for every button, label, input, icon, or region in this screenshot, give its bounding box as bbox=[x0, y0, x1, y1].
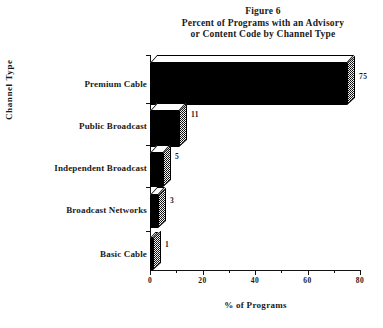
y-axis-tick bbox=[146, 103, 150, 104]
y-axis-tick bbox=[146, 145, 150, 146]
bar-value-broadcast-networks: 3 bbox=[170, 196, 174, 205]
bar-side-public-broadcast bbox=[179, 104, 187, 147]
x-axis-tick-minor bbox=[229, 270, 230, 273]
x-axis-label-60: 60 bbox=[303, 276, 311, 285]
bar-value-independent-broadcast: 5 bbox=[175, 152, 179, 161]
y-axis-tick bbox=[146, 231, 150, 232]
bar-side-independent-broadcast bbox=[163, 146, 171, 187]
x-axis-label-80: 80 bbox=[356, 276, 364, 285]
bar-front-public-broadcast bbox=[150, 111, 179, 147]
bar-value-public-broadcast: 11 bbox=[191, 110, 199, 119]
category-label-premium-cable: Premium Cable bbox=[84, 79, 147, 89]
figure-6-chart: Figure 6 Percent of Programs with an Adv… bbox=[0, 0, 383, 328]
x-axis-tick-minor bbox=[176, 270, 177, 273]
x-axis-tick-minor bbox=[281, 270, 282, 273]
y-axis-tick bbox=[146, 187, 150, 188]
bar-side-broadcast-networks bbox=[158, 188, 166, 228]
x-axis-label-20: 20 bbox=[198, 276, 206, 285]
bar-front-broadcast-networks bbox=[150, 195, 158, 228]
bar-value-premium-cable: 75 bbox=[359, 72, 367, 81]
bar-side-premium-cable bbox=[347, 56, 355, 105]
bar-top-premium-cable bbox=[150, 55, 354, 63]
x-axis-title: % of Programs bbox=[150, 300, 361, 310]
x-axis-tick-major bbox=[308, 270, 309, 275]
bar-front-premium-cable bbox=[150, 63, 347, 105]
x-axis-label-40: 40 bbox=[251, 276, 259, 285]
category-label-broadcast-networks: Broadcast Networks bbox=[66, 205, 147, 215]
x-axis-tick-major bbox=[360, 270, 361, 275]
category-label-public-broadcast: Public Broadcast bbox=[79, 121, 147, 131]
category-label-basic-cable: Basic Cable bbox=[100, 249, 147, 259]
x-axis-tick-major bbox=[150, 270, 151, 275]
category-label-independent-broadcast: Independent Broadcast bbox=[54, 163, 147, 173]
plot-area: 75 11 5 3 1 bbox=[0, 0, 383, 328]
y-axis-title: Channel Type bbox=[4, 59, 14, 120]
bar-side-basic-cable bbox=[153, 231, 161, 270]
x-axis-label-0: 0 bbox=[148, 276, 152, 285]
x-axis-tick-major bbox=[203, 270, 204, 275]
y-axis-tick bbox=[146, 55, 150, 56]
x-axis-tick-major bbox=[255, 270, 256, 275]
x-axis-tick-minor bbox=[334, 270, 335, 273]
bar-value-basic-cable: 1 bbox=[165, 240, 169, 249]
bar-front-independent-broadcast bbox=[150, 153, 163, 187]
